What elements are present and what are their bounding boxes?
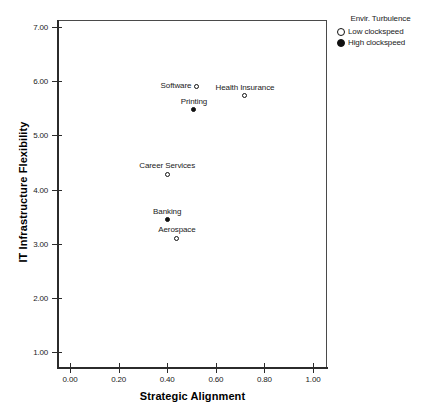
y-tick: [52, 298, 62, 299]
x-tick-label: 0.40: [150, 375, 184, 384]
legend: Envir. Turbulence Low clockspeedHigh clo…: [337, 14, 424, 48]
x-tick-label: 0.20: [102, 375, 136, 384]
y-tick: [52, 244, 62, 245]
y-tick: [52, 352, 62, 353]
x-tick-label: 0.00: [53, 375, 87, 384]
y-tick: [52, 27, 62, 28]
data-point: [194, 84, 199, 89]
y-tick: [52, 135, 62, 136]
data-point-label: Printing: [181, 97, 207, 106]
y-tick-label: 2.00: [14, 294, 48, 303]
data-point-label: Career Services: [139, 161, 195, 170]
data-point-label: Banking: [153, 207, 181, 216]
open-circle-icon: [337, 28, 345, 36]
legend-entries: Low clockspeedHigh clockspeed: [337, 26, 424, 48]
legend-entry-label: Low clockspeed: [348, 27, 404, 36]
legend-entry: Low clockspeed: [337, 26, 424, 37]
y-tick: [52, 190, 62, 191]
legend-entry: High clockspeed: [337, 37, 424, 48]
x-axis-line: [57, 367, 328, 369]
x-tick: [216, 363, 217, 373]
x-tick-label: 0.60: [199, 375, 233, 384]
y-axis-title: IT Infrastructure Flexibility: [17, 92, 29, 292]
x-tick: [70, 363, 71, 373]
x-tick: [119, 363, 120, 373]
x-tick: [264, 363, 265, 373]
data-point-label: Software: [161, 81, 192, 90]
x-tick: [313, 363, 314, 373]
legend-title: Envir. Turbulence: [337, 14, 424, 24]
y-tick-label: 6.00: [14, 77, 48, 86]
data-point-label: Health Insurance: [216, 83, 275, 92]
plot-area: [57, 20, 327, 368]
x-tick: [167, 363, 168, 373]
y-axis-line: [57, 20, 59, 369]
y-tick-label: 1.00: [14, 348, 48, 357]
data-point: [165, 172, 170, 177]
y-tick-label: 7.00: [14, 23, 48, 32]
legend-entry-label: High clockspeed: [348, 38, 405, 47]
scatter-chart: 1.002.003.004.005.006.007.00 0.000.200.4…: [0, 0, 424, 411]
x-tick-label: 1.00: [296, 375, 330, 384]
y-tick: [52, 81, 62, 82]
data-point-label: Aerospace: [158, 225, 195, 234]
x-tick-label: 0.80: [247, 375, 281, 384]
filled-circle-icon: [337, 39, 345, 47]
x-axis-title: Strategic Alignment: [57, 390, 328, 402]
